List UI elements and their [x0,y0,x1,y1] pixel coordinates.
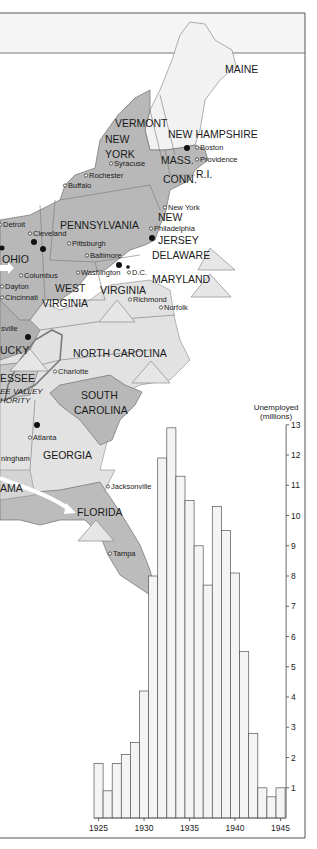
city-label-columbus: Columbus [24,271,58,280]
bar-1943 [258,788,267,818]
city-marker-icon [109,162,112,165]
city-marker-icon [108,552,111,555]
tva-label-2: HORITY [0,396,31,405]
state-label-delaware: DELAWARE [152,249,210,261]
city-marker-icon [63,184,66,187]
map-figure: MAINEVERMONTNEWYORKNEW HAMPSHIREMASS.CON… [0,0,317,849]
bar-1944 [267,797,276,818]
x-tick-label-1935: 1935 [180,823,199,833]
region-florida [0,482,155,595]
city-label-new-york-city: New York [168,203,200,212]
bar-1938 [212,506,221,818]
bar-1941 [240,652,249,818]
city-label-washington: Washington [81,268,120,277]
bar-1937 [203,585,212,818]
header-band [0,13,305,53]
city-label-providence: Providence [200,155,238,164]
state-label-maine: MAINE [225,63,258,75]
y-tick-label: 9 [291,541,296,551]
state-label-vermont: VERMONT [115,117,168,129]
city-label-dayton: Dayton [5,282,29,291]
city-label-jacksonville: Jacksonville [111,482,151,491]
city-label-baltimore: Baltimore [90,251,122,260]
x-tick-label-1930: 1930 [135,823,154,833]
city-label-dc: D.C. [132,268,147,277]
y-tick-label: 3 [291,722,296,732]
city-marker-icon [28,436,31,439]
y-tick-label: 7 [291,601,296,611]
x-tick-label-1925: 1925 [89,823,108,833]
city-marker-icon [127,271,130,274]
bar-1931 [149,576,158,818]
state-label-florida: FLORIDA [77,506,123,518]
city-label-charlotte: Charlotte [58,367,88,376]
bar-1932 [158,458,167,818]
state-label-south-carolina-2: CAROLINA [74,404,128,416]
bar-1928 [121,755,130,819]
city-marker-icon [106,485,109,488]
city-label-cincinnati: Cincinnati [5,293,38,302]
state-label-ohio: OHIO [2,253,29,265]
city-marker-icon [163,206,166,209]
city-label-rochester: Rochester [89,171,124,180]
city-label-detroit: Detroit [3,220,26,229]
city-label-boston: Boston [200,143,223,152]
y-tick-label: 12 [291,450,301,460]
state-label-new-jersey-2: JERSEY [158,234,199,246]
city-marker-icon [28,232,31,235]
city-marker-icon [128,298,131,301]
bar-1936 [194,546,203,818]
state-label-maryland: MARYLAND [152,273,211,285]
city-label-syracuse: Syracuse [114,159,145,168]
city-label-cleveland: Cleveland [33,229,66,238]
state-label-tennessee: ESSEE [0,372,35,384]
city-marker-icon [85,254,88,257]
y-tick-label: 6 [291,632,296,642]
state-label-new-york-1: NEW [105,133,130,145]
city-label-philadelphia: Philadelphia [154,224,196,233]
city-marker-icon [195,158,198,161]
bar-1939 [221,531,230,818]
y-tick-label: 8 [291,571,296,581]
y-tick-label: 4 [291,692,296,702]
y-tick-label: 11 [291,480,300,490]
y-axis-title-line1: Unemployed [254,403,299,412]
state-label-georgia: GEORGIA [43,449,92,461]
city-label-pittsburgh: Pittsburgh [72,239,106,248]
bar-1929 [130,742,139,818]
state-label-new-hampshire: NEW HAMPSHIRE [168,128,258,140]
y-tick-label: 13 [291,420,301,430]
bar-1945 [276,788,285,818]
y-tick-label: 2 [291,753,296,763]
state-label-pennsylvania: PENNSYLVANIA [60,219,139,231]
y-tick-label: 5 [291,662,296,672]
city-marker-icon [19,274,22,277]
city-label-birmingham: ningham [1,454,30,463]
bar-1930 [140,691,149,818]
state-label-mass: MASS. [161,154,194,166]
city-marker-icon [149,227,152,230]
state-label-west-virginia-1: WEST [55,282,86,294]
state-label-north-carolina: NORTH CAROLINA [73,347,167,359]
city-label-louisville: sville [1,324,18,333]
y-tick-label: 10 [291,511,301,521]
bar-1926 [103,791,112,818]
city-marker-icon [53,370,56,373]
state-label-kentucky: UCKY [0,344,29,356]
city-marker-icon [76,271,79,274]
bar-1925 [94,764,103,819]
bar-1934 [176,476,185,818]
city-label-buffalo: Buffalo [68,181,91,190]
y-tick-label: 1 [291,783,296,793]
city-label-richmond: Richmond [133,295,167,304]
state-label-new-jersey-1: NEW [158,211,183,223]
state-label-south-carolina-1: SOUTH [81,389,118,401]
x-tick-label-1945: 1945 [271,823,290,833]
city-marker-icon [195,146,198,149]
city-label-norfolk: Norfolk [164,303,188,312]
bar-1942 [249,733,258,818]
tva-label-1: EE VALLEY [0,387,43,396]
city-label-tampa: Tampa [113,549,136,558]
state-label-ri: R.I. [196,168,212,180]
city-label-atlanta: Atlanta [33,433,57,442]
